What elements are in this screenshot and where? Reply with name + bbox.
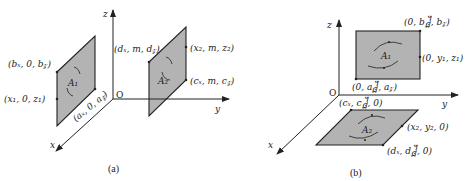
point-label: (0, y₁, z₁) (422, 53, 464, 63)
diagram-canvas: A₂ z y x O A₁ (bₓ, 0, b𝓏) (x₁, 0, z₁) (a… (0, 0, 473, 181)
vertex-dot (382, 144, 385, 147)
plane-a2-shape (149, 27, 186, 116)
vertex-dot (56, 98, 59, 101)
y-axis-label: y (214, 104, 221, 114)
vertex-dot (148, 61, 151, 64)
vertex-dot (94, 88, 97, 91)
arrow-head-icon (371, 114, 373, 116)
point-label: (cₓ, m, c𝓏) (190, 76, 235, 86)
vertex-dot (185, 46, 188, 49)
arrow-head-icon (383, 67, 385, 69)
panel-a-caption: (a) (108, 163, 119, 175)
plane-b-a2: A₂ (316, 109, 418, 147)
point-label: (0, a᧸, a𝓏) (352, 80, 397, 93)
vertex-dot (419, 56, 422, 59)
point-label: (x₁, 0, z₁) (4, 94, 46, 104)
z-axis-label: z (102, 9, 108, 19)
vertex-dot (401, 125, 404, 128)
vertex-dot (419, 30, 422, 33)
point-label: (x₂, y₂, 0) (407, 122, 449, 132)
point-label: (dₓ, m, d𝓏) (114, 44, 160, 54)
point-label: (dₓ, d᧸, 0) (387, 144, 432, 157)
arrow-head-icon (388, 41, 390, 43)
point-label: (cₓ, c᧸, 0) (339, 96, 383, 109)
plane-a1-label: A₁ (67, 78, 78, 88)
origin-label: O (116, 90, 123, 100)
plane-a2-label: A₂ (361, 125, 372, 135)
vertex-dot (185, 79, 188, 82)
panel-b: z y x O A₁ A₂ (268, 15, 464, 179)
plane-b-a1: A₁ (355, 30, 422, 81)
vertex-dot (56, 71, 59, 74)
z-axis-label: z (326, 20, 332, 30)
panel-a: A₂ z y x O A₁ (bₓ, 0, b𝓏) (x₁, 0, z₁) (a… (4, 9, 235, 175)
point-label: (bₓ, 0, b𝓏) (8, 59, 51, 69)
vertex-dot (350, 109, 353, 112)
x-axis-label: x (50, 140, 55, 150)
arrow-head-icon (364, 139, 366, 141)
x-axis-label: x (268, 140, 273, 150)
vertex-dot (355, 78, 358, 81)
plane-a2-label: A₂ (157, 76, 168, 86)
point-label: (x₂, m, z₂) (190, 43, 235, 53)
panel-b-caption: (b) (350, 167, 362, 179)
point-label: (0, b᧸, b𝓏) (404, 15, 450, 28)
y-axis-label: y (441, 99, 448, 109)
plane-a1-label: A₁ (380, 51, 391, 61)
plane-a2: A₂ (148, 27, 188, 116)
origin-label: O (329, 88, 336, 98)
